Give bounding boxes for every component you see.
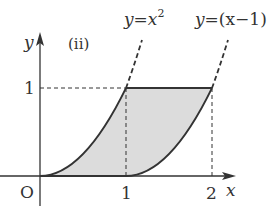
label-shifted-rhs: (x−1) xyxy=(219,9,267,29)
label-parabola: y=x2 xyxy=(123,7,164,29)
x-axis-label: x xyxy=(226,180,236,200)
curve-parabola-extension xyxy=(126,40,142,88)
origin-label: O xyxy=(20,182,34,202)
area-between-curves-figure: y x O 1 2 1 (ii) y=x2 y=(x−1) xyxy=(0,0,276,206)
y-axis-label: y xyxy=(23,32,34,52)
label-parabola-rhs: x xyxy=(148,9,158,29)
label-parabola-y: y xyxy=(123,9,134,29)
x-tick-2: 2 xyxy=(206,183,217,203)
label-shifted-parabola: y=(x−1) xyxy=(194,9,267,29)
label-parabola-sup: 2 xyxy=(157,7,164,20)
panel-label: (ii) xyxy=(68,35,89,53)
y-tick-1: 1 xyxy=(24,78,35,98)
x-tick-1: 1 xyxy=(121,183,132,203)
curve-shifted-parabola-extension xyxy=(212,40,228,88)
label-shifted-y: y xyxy=(194,9,205,29)
label-parabola-eq: = xyxy=(134,9,148,29)
label-shifted-eq: = xyxy=(205,9,219,29)
